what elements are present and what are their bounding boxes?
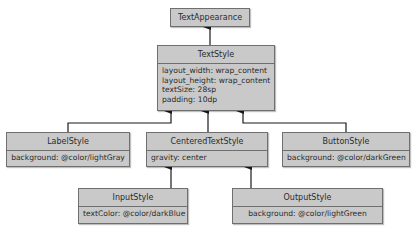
attribute: textSize: 28sp (162, 85, 270, 95)
attribute: background: @color/lightGreen (233, 207, 382, 221)
node-title: OutputStyle (233, 189, 382, 207)
node-title: ButtonStyle (283, 133, 409, 151)
node-inputstyle: InputStyle textColor: @color/darkBlue (78, 188, 188, 224)
attribute: background: @color/darkGreen (283, 151, 409, 165)
attribute: layout_height: wrap_content (162, 76, 270, 86)
node-labelstyle: LabelStyle background: @color/lightGray (6, 132, 130, 167)
attribute: padding: 10dp (162, 95, 270, 105)
node-title: TextStyle (158, 46, 274, 64)
node-centeredtextstyle: CenteredTextStyle gravity: center (146, 132, 268, 167)
node-outputstyle: OutputStyle background: @color/lightGree… (232, 188, 383, 224)
node-textappearance: TextAppearance (170, 8, 250, 27)
node-title: LabelStyle (7, 133, 129, 151)
node-attributes: layout_width: wrap_content layout_height… (158, 64, 274, 106)
node-title: TextAppearance (171, 9, 249, 26)
node-title: InputStyle (79, 189, 187, 207)
attribute: gravity: center (147, 151, 267, 165)
node-textstyle: TextStyle layout_width: wrap_content lay… (157, 45, 275, 111)
node-title: CenteredTextStyle (147, 133, 267, 151)
attribute: background: @color/lightGray (7, 151, 129, 165)
attribute: textColor: @color/darkBlue (79, 207, 187, 221)
attribute: layout_width: wrap_content (162, 66, 270, 76)
node-buttonstyle: ButtonStyle background: @color/darkGreen (282, 132, 410, 167)
